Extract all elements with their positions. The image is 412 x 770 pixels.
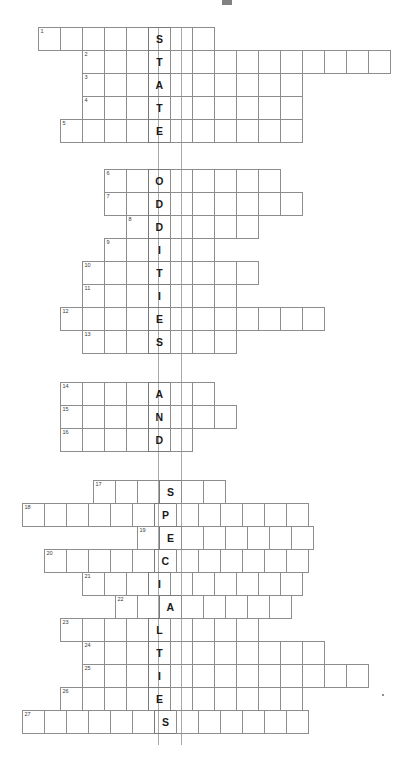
cell-16-4[interactable] xyxy=(126,428,149,452)
cell-7-6[interactable] xyxy=(214,192,237,216)
cell-10-5[interactable] xyxy=(170,261,193,285)
cell-21-2[interactable] xyxy=(104,572,127,596)
cell-5-6[interactable] xyxy=(170,119,193,143)
cell-4-2[interactable] xyxy=(104,96,127,120)
cell-13-6[interactable] xyxy=(192,330,215,354)
key-cell-26[interactable]: E xyxy=(148,687,171,711)
cell-22-7[interactable] xyxy=(247,595,270,619)
cell-26-4[interactable] xyxy=(126,687,149,711)
cell-13-3[interactable] xyxy=(126,330,149,354)
cell-12-12[interactable] xyxy=(302,307,325,331)
cell-24-11[interactable] xyxy=(302,641,325,665)
cell-23-3[interactable] xyxy=(104,618,127,642)
cell-22-1[interactable]: 22 xyxy=(115,595,138,619)
cell-3-7[interactable] xyxy=(214,73,237,97)
cell-27-9[interactable] xyxy=(198,710,221,734)
cell-5-3[interactable] xyxy=(104,119,127,143)
key-cell-19[interactable]: E xyxy=(159,526,182,550)
cell-18-11[interactable] xyxy=(242,503,265,527)
cell-18-6[interactable] xyxy=(132,503,155,527)
cell-10-7[interactable] xyxy=(214,261,237,285)
key-cell-8[interactable]: D xyxy=(148,215,171,239)
cell-12-3[interactable] xyxy=(104,307,127,331)
cell-5-10[interactable] xyxy=(258,119,281,143)
cell-7-2[interactable] xyxy=(126,192,149,216)
cell-3-6[interactable] xyxy=(192,73,215,97)
cell-16-3[interactable] xyxy=(104,428,127,452)
cell-17-6[interactable] xyxy=(203,480,226,504)
cell-2-7[interactable] xyxy=(214,50,237,74)
cell-3-8[interactable] xyxy=(236,73,259,97)
cell-10-6[interactable] xyxy=(192,261,215,285)
cell-27-3[interactable] xyxy=(66,710,89,734)
cell-14-6[interactable] xyxy=(170,382,193,406)
cell-18-12[interactable] xyxy=(264,503,287,527)
cell-20-2[interactable] xyxy=(66,549,89,573)
key-cell-21[interactable]: I xyxy=(148,572,171,596)
key-cell-27[interactable]: S xyxy=(154,710,177,734)
cell-9-5[interactable] xyxy=(192,238,215,262)
cell-2-1[interactable]: 2 xyxy=(82,50,105,74)
cell-3-1[interactable]: 3 xyxy=(82,73,105,97)
cell-12-2[interactable] xyxy=(82,307,105,331)
cell-20-9[interactable] xyxy=(220,549,243,573)
cell-27-5[interactable] xyxy=(110,710,133,734)
cell-18-8[interactable] xyxy=(176,503,199,527)
cell-21-10[interactable] xyxy=(280,572,303,596)
cell-25-9[interactable] xyxy=(258,664,281,688)
key-cell-18[interactable]: P xyxy=(154,503,177,527)
cell-17-5[interactable] xyxy=(181,480,204,504)
cell-15-7[interactable] xyxy=(192,405,215,429)
cell-27-2[interactable] xyxy=(44,710,67,734)
cell-4-10[interactable] xyxy=(280,96,303,120)
cell-22-8[interactable] xyxy=(269,595,292,619)
cell-2-14[interactable] xyxy=(368,50,391,74)
cell-4-7[interactable] xyxy=(214,96,237,120)
cell-22-5[interactable] xyxy=(203,595,226,619)
cell-26-6[interactable] xyxy=(170,687,193,711)
cell-9-2[interactable] xyxy=(126,238,149,262)
cell-26-7[interactable] xyxy=(192,687,215,711)
key-cell-14[interactable]: A xyxy=(148,382,171,406)
cell-16-2[interactable] xyxy=(82,428,105,452)
cell-3-9[interactable] xyxy=(258,73,281,97)
key-cell-2[interactable]: T xyxy=(148,50,171,74)
key-cell-24[interactable]: T xyxy=(148,641,171,665)
cell-14-7[interactable] xyxy=(192,382,215,406)
key-cell-9[interactable]: I xyxy=(148,238,171,262)
key-cell-25[interactable]: I xyxy=(148,664,171,688)
key-cell-22[interactable]: A xyxy=(159,595,182,619)
cell-3-10[interactable] xyxy=(280,73,303,97)
key-cell-17[interactable]: S xyxy=(159,480,182,504)
cell-19-1[interactable]: 19 xyxy=(137,526,160,550)
cell-24-9[interactable] xyxy=(258,641,281,665)
cell-10-2[interactable] xyxy=(104,261,127,285)
cell-11-3[interactable] xyxy=(126,284,149,308)
cell-8-3[interactable] xyxy=(170,215,193,239)
cell-17-2[interactable] xyxy=(115,480,138,504)
cell-25-5[interactable] xyxy=(170,664,193,688)
cell-27-11[interactable] xyxy=(242,710,265,734)
cell-19-3[interactable] xyxy=(181,526,204,550)
cell-6-5[interactable] xyxy=(192,169,215,193)
cell-26-1[interactable]: 26 xyxy=(60,687,83,711)
cell-10-3[interactable] xyxy=(126,261,149,285)
cell-20-4[interactable] xyxy=(110,549,133,573)
cell-7-4[interactable] xyxy=(170,192,193,216)
cell-5-4[interactable] xyxy=(126,119,149,143)
cell-16-1[interactable]: 16 xyxy=(60,428,83,452)
cell-27-8[interactable] xyxy=(176,710,199,734)
cell-1-3[interactable] xyxy=(82,27,105,51)
cell-23-6[interactable] xyxy=(170,618,193,642)
cell-24-10[interactable] xyxy=(280,641,303,665)
cell-1-2[interactable] xyxy=(60,27,83,51)
cell-6-2[interactable] xyxy=(126,169,149,193)
cell-4-8[interactable] xyxy=(236,96,259,120)
cell-27-12[interactable] xyxy=(264,710,287,734)
cell-19-7[interactable] xyxy=(269,526,292,550)
cell-26-8[interactable] xyxy=(214,687,237,711)
cell-13-7[interactable] xyxy=(214,330,237,354)
key-cell-12[interactable]: E xyxy=(148,307,171,331)
cell-24-8[interactable] xyxy=(236,641,259,665)
cell-2-11[interactable] xyxy=(302,50,325,74)
